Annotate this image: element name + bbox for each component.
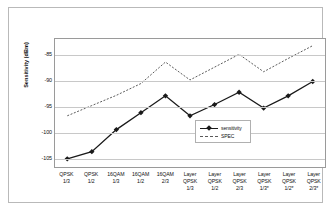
x-axis-tick: LayerQPSK1/3*: [252, 171, 277, 211]
y-axis-tick: -85: [24, 51, 52, 57]
x-axis-tick: LayerQPSK1/2: [202, 171, 227, 211]
x-axis-tick: LayerQPSK2/3: [227, 171, 252, 211]
chart-screenshot: Sensitivity (dBm) -85-90-95-100-105 QPSK…: [0, 0, 332, 211]
y-axis-tick: -90: [24, 77, 52, 83]
x-axis-tick: 16QAM1/3: [103, 171, 128, 211]
gridline: [55, 107, 325, 108]
plot-area: [54, 38, 326, 168]
data-point-marker: [286, 93, 291, 98]
gridline: [55, 81, 325, 82]
x-axis-tick: QPSK1/3: [54, 171, 79, 211]
legend-label-sensitivity: sensitivity: [221, 124, 242, 132]
legend-item-sensitivity: sensitivity: [199, 124, 247, 132]
series-line-sensitivity: [67, 81, 312, 158]
gridline: [55, 55, 325, 56]
y-axis-tick: -95: [24, 103, 52, 109]
x-axis-tick: 16QAM2/3: [153, 171, 178, 211]
legend-key-solid-line-icon: [199, 124, 219, 132]
y-axis-tick: -105: [24, 155, 52, 161]
y-axis-tick: -100: [24, 129, 52, 135]
series-canvas: [55, 39, 325, 167]
chart-legend: sensitivity SPEC: [195, 120, 251, 143]
x-axis-tick: LayerQPSK1/2*: [277, 171, 302, 211]
x-axis-tick-labels: QPSK1/3QPSK1/216QAM1/316QAM1/216QAM2/3La…: [54, 171, 326, 211]
x-axis-tick: LayerQPSK2/3*: [301, 171, 326, 211]
legend-item-spec: SPEC: [199, 132, 247, 140]
x-axis-tick: 16QAM1/2: [128, 171, 153, 211]
chart-frame: Sensitivity (dBm) -85-90-95-100-105 QPSK…: [8, 7, 323, 203]
y-axis-tick-labels: -85-90-95-100-105: [19, 38, 52, 168]
gridline: [55, 133, 325, 134]
x-axis-tick: LayerQPSK1/3: [178, 171, 203, 211]
x-axis-tick: QPSK1/2: [79, 171, 104, 211]
gridline: [55, 159, 325, 160]
legend-key-dashed-line-icon: [199, 132, 219, 140]
legend-label-spec: SPEC: [221, 132, 234, 140]
